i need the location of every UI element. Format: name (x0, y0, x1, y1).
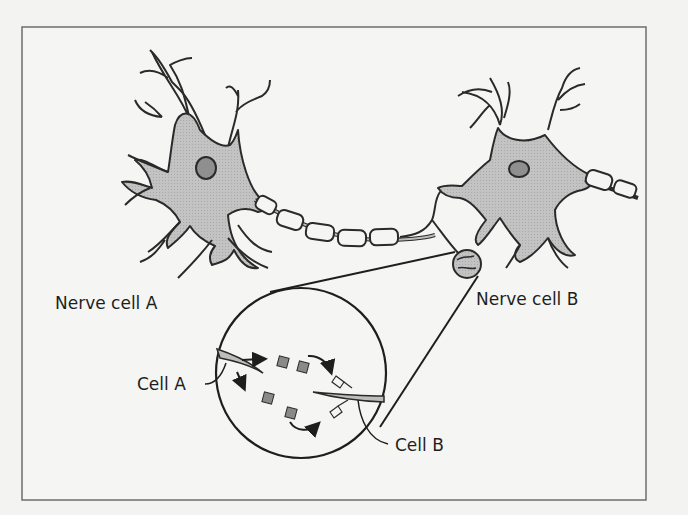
label-cell-b: Cell B (395, 435, 444, 455)
synapse-figure: Nerve cell A Nerve cell B Cell A Cell B (0, 0, 688, 515)
nucleus-b (509, 161, 529, 177)
synapse-highlight (453, 250, 481, 278)
label-nerve-cell-a: Nerve cell A (55, 293, 158, 313)
label-cell-a: Cell A (137, 374, 186, 394)
nucleus-a (196, 157, 216, 179)
label-nerve-cell-b: Nerve cell B (476, 289, 578, 309)
